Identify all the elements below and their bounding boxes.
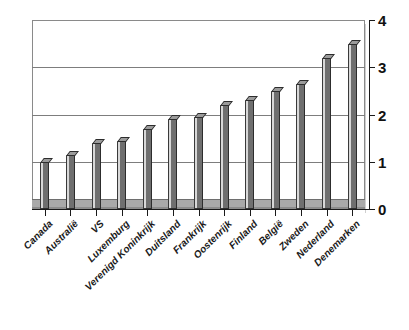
- bar-top-face: [322, 54, 335, 59]
- bar-front-face: [274, 91, 280, 209]
- bar: [245, 100, 254, 209]
- y-tick-0: [369, 209, 375, 210]
- x-tick: [147, 209, 148, 216]
- bar: [92, 143, 101, 209]
- bar-top-face: [245, 96, 258, 101]
- bar: [220, 105, 229, 209]
- bar-front-face: [146, 129, 152, 209]
- bar-front-face: [351, 44, 357, 209]
- bar-top-face: [271, 87, 284, 92]
- bar-top-face: [296, 80, 309, 85]
- bar-top-face: [40, 158, 53, 163]
- x-tick: [122, 209, 123, 216]
- bar: [194, 117, 203, 209]
- y-tick-label-0: 0: [378, 202, 386, 217]
- bar-front-face: [95, 143, 101, 209]
- x-axis-line: [32, 209, 369, 210]
- y-tick-3: [369, 67, 375, 68]
- x-tick: [250, 209, 251, 216]
- y-tick-2: [369, 115, 375, 116]
- bar-front-face: [120, 141, 126, 210]
- x-tick: [173, 209, 174, 216]
- x-tick: [352, 209, 353, 216]
- bar-top-face: [143, 125, 156, 130]
- bar: [143, 129, 152, 209]
- bar-top-face: [117, 137, 130, 142]
- x-tick: [275, 209, 276, 216]
- x-tick: [96, 209, 97, 216]
- bar-front-face: [248, 100, 254, 209]
- y-tick-1: [369, 162, 375, 163]
- bar: [66, 155, 75, 209]
- bar: [296, 84, 305, 209]
- y-tick-label-2: 2: [378, 107, 386, 122]
- x-tick: [70, 209, 71, 216]
- x-tick: [45, 209, 46, 216]
- bar-front-face: [223, 105, 229, 209]
- bar: [322, 58, 331, 209]
- bar-front-face: [325, 58, 331, 209]
- y-tick-label-1: 1: [378, 154, 386, 169]
- bar-top-face: [66, 151, 79, 156]
- bar-top-face: [220, 101, 233, 106]
- bar: [117, 141, 126, 210]
- bar-front-face: [69, 155, 75, 209]
- bar-front-face: [43, 162, 49, 209]
- bar-top-face: [92, 139, 105, 144]
- bar-front-face: [171, 119, 177, 209]
- bar: [271, 91, 280, 209]
- bar-front-face: [197, 117, 203, 209]
- x-tick: [224, 209, 225, 216]
- x-tick: [301, 209, 302, 216]
- bar-front-face: [299, 84, 305, 209]
- y-tick-4: [369, 20, 375, 21]
- y-tick-label-3: 3: [378, 60, 386, 75]
- x-tick: [327, 209, 328, 216]
- bar: [348, 44, 357, 209]
- bar: [40, 162, 49, 209]
- y-tick-label-4: 4: [378, 13, 386, 28]
- bar-chart: 01234 CanadaAustraliëVSLuxemburgVerenigd…: [0, 0, 409, 330]
- bar-top-face: [348, 40, 361, 45]
- bar-top-face: [168, 115, 181, 120]
- bar: [168, 119, 177, 209]
- x-tick: [199, 209, 200, 216]
- bar-top-face: [194, 113, 207, 118]
